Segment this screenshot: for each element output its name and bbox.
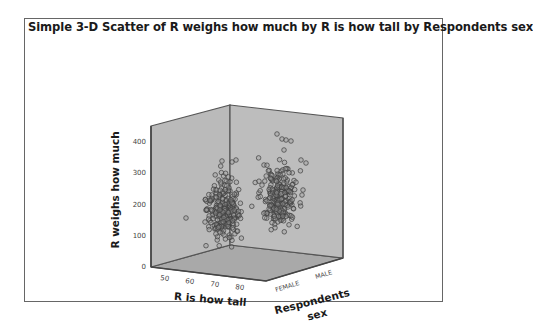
svg-text:300: 300	[133, 169, 146, 177]
y-axis-ticks: 400 300 200 100 0	[133, 138, 146, 271]
svg-text:70: 70	[210, 280, 220, 289]
svg-text:0: 0	[142, 263, 146, 271]
svg-text:MALE: MALE	[314, 268, 333, 280]
left-wall	[151, 105, 230, 267]
y-axis-label: R weighs how much	[109, 131, 121, 248]
svg-text:50: 50	[160, 274, 170, 283]
x-axis-label: R is how tall	[174, 290, 247, 308]
svg-text:400: 400	[133, 138, 146, 146]
svg-text:80: 80	[235, 283, 245, 292]
svg-text:200: 200	[133, 201, 146, 209]
svg-text:100: 100	[133, 232, 146, 240]
svg-text:60: 60	[185, 277, 195, 286]
z-axis-label-2: sex	[306, 306, 329, 323]
svg-text:FEMALE: FEMALE	[274, 279, 300, 293]
